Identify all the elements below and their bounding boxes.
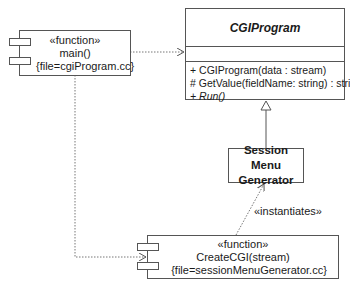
createcgi-name: CreateCGI(stream) xyxy=(148,251,338,264)
session-class-name-line2: Generator xyxy=(229,173,303,188)
createcgi-function-component[interactable]: «function» CreateCGI(stream) {file=sessi… xyxy=(147,235,339,279)
main-stereotype: «function» xyxy=(20,34,130,47)
operation-getvalue: # GetValue(fieldName: string) : string xyxy=(190,77,342,90)
operation-constructor: + CGIProgram(data : stream) xyxy=(190,64,342,77)
component-icon-tab-bottom xyxy=(9,57,31,65)
component-icon-tab-top xyxy=(137,243,159,251)
main-function-component[interactable]: «function» main() {file=cgiProgram.cc} xyxy=(19,30,131,76)
cgiprogram-class-name: CGIProgram xyxy=(186,9,344,47)
component-icon-tab-bottom xyxy=(137,262,159,270)
component-icon-tab-top xyxy=(9,38,31,46)
createcgi-stereotype: «function» xyxy=(148,238,338,251)
operation-run-name: Run() xyxy=(199,90,225,102)
operation-run: + Run() xyxy=(190,90,342,103)
operation-run-visibility: + xyxy=(190,90,199,102)
cgiprogram-attributes-compartment xyxy=(186,46,344,62)
dependency-main-to-createcgi xyxy=(75,75,146,257)
cgiprogram-class[interactable]: CGIProgram + CGIProgram(data : stream) #… xyxy=(185,8,345,100)
cgiprogram-operations-compartment: + CGIProgram(data : stream) # GetValue(f… xyxy=(190,64,342,103)
main-property: {file=cgiProgram.cc} xyxy=(20,60,130,73)
session-class-name-line1: Session Menu xyxy=(229,143,303,173)
main-name: main() xyxy=(20,47,130,60)
createcgi-property: {file=sessionMenuGenerator.cc} xyxy=(148,264,338,277)
session-menu-generator-class[interactable]: Session Menu Generator xyxy=(228,148,304,183)
instantiates-label: «instantiates» xyxy=(254,205,322,217)
